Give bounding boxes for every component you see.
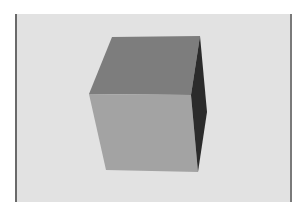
cube-top-face xyxy=(89,36,200,95)
cube-illustration xyxy=(0,0,307,211)
cube-front-face xyxy=(89,94,198,172)
